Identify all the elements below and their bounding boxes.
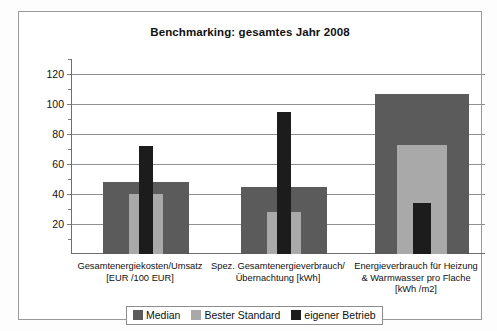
y-axis-tick-label: 80	[52, 128, 64, 140]
x-axis-category-label-line: Übernachtung [kWh]	[201, 273, 355, 285]
x-axis-category-label-line: & Warmwasser pro Flache	[339, 273, 493, 285]
chart-legend: MedianBester Standardeigener Betrieb	[126, 306, 383, 325]
legend-item[interactable]: Bester Standard	[191, 309, 280, 321]
x-axis-category-label: Gesamtenergiekosten/Umsatz[EUR /100 EUR]	[63, 261, 217, 284]
x-axis-category-label-line: [kWh /m2]	[339, 284, 493, 296]
plot-area: 20406080100120	[71, 59, 485, 254]
legend-item[interactable]: Median	[133, 309, 180, 321]
legend-swatch-median	[133, 310, 143, 320]
bar-own[interactable]	[277, 112, 291, 255]
y-axis-tick	[67, 104, 71, 105]
bar-group	[241, 59, 327, 254]
legend-swatch-own	[291, 310, 301, 320]
legend-label: Median	[146, 309, 180, 321]
x-axis-category-label-line: Spez. Gesamtenergieverbrauch/	[201, 261, 355, 273]
y-axis-minor-tick	[68, 239, 71, 240]
legend-swatch-best	[191, 310, 201, 320]
y-axis-minor-tick	[68, 179, 71, 180]
y-axis-minor-tick	[68, 89, 71, 90]
y-axis-tick-label: 120	[46, 68, 64, 80]
y-axis-tick-label: 40	[52, 188, 64, 200]
y-axis-minor-tick	[68, 59, 71, 60]
legend-item[interactable]: eigener Betrieb	[291, 309, 375, 321]
chart-title: Benchmarking: gesamtes Jahr 2008	[19, 26, 481, 38]
y-axis-minor-tick	[68, 149, 71, 150]
y-axis-tick-label: 20	[52, 218, 64, 230]
x-axis-category-label-line: [EUR /100 EUR]	[63, 273, 217, 285]
y-axis-tick	[67, 164, 71, 165]
y-axis-tick-label: 60	[52, 158, 64, 170]
x-axis-category-label: Spez. Gesamtenergieverbrauch/Übernachtun…	[201, 261, 355, 284]
y-axis-tick	[67, 134, 71, 135]
bar-group	[375, 59, 469, 254]
y-axis-tick-label: 100	[46, 98, 64, 110]
y-axis-minor-tick	[68, 119, 71, 120]
y-axis-tick	[67, 194, 71, 195]
y-axis-tick	[67, 74, 71, 75]
bar-own[interactable]	[139, 146, 153, 254]
legend-label: eigener Betrieb	[304, 309, 375, 321]
chart-frame: Benchmarking: gesamtes Jahr 2008 2040608…	[18, 11, 482, 320]
y-axis-minor-tick	[68, 209, 71, 210]
y-axis-tick	[67, 224, 71, 225]
x-axis-category-label-line: Energieverbrauch für Heizung	[339, 261, 493, 273]
bar-group	[103, 59, 189, 254]
x-axis-category-label-line: Gesamtenergiekosten/Umsatz	[63, 261, 217, 273]
bar-own[interactable]	[413, 203, 431, 254]
legend-label: Bester Standard	[204, 309, 280, 321]
x-axis-category-label: Energieverbrauch für Heizung& Warmwasser…	[339, 261, 493, 296]
